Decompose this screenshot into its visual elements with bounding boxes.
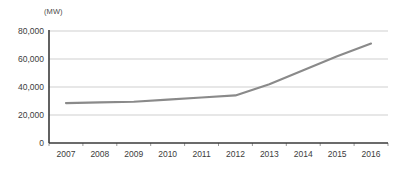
x-tick-label-2010: 2010 [158,150,177,159]
data-series-line [66,44,371,104]
x-tick-label-2009: 2009 [124,150,143,159]
x-tick-label-2008: 2008 [90,150,109,159]
x-tick-label-2014: 2014 [294,150,313,159]
x-tick-label-2012: 2012 [226,150,245,159]
x-tick-label-2013: 2013 [260,150,279,159]
plot-area [0,0,406,174]
x-tick-label-2015: 2015 [328,150,347,159]
x-tick-label-2011: 2011 [192,150,210,159]
chart-container: (MW) 80,000 60,000 40,000 20,000 0 20072… [0,0,406,174]
x-tick-label-2016: 2016 [362,150,381,159]
x-tick-label-2007: 2007 [56,150,75,159]
